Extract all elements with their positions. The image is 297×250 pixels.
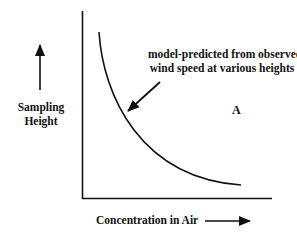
y-axis-label: Sampling Height bbox=[12, 100, 70, 128]
curve-annotation-line-1: model-predicted from observed bbox=[148, 47, 296, 61]
region-label: A bbox=[232, 103, 241, 117]
curve-annotation: model-predicted from observed wind speed… bbox=[148, 47, 296, 75]
pointer-arrow-icon bbox=[128, 82, 160, 111]
x-axis-label: Concentration in Air bbox=[96, 213, 198, 227]
curve-annotation-line-2: wind speed at various heights bbox=[148, 61, 296, 75]
y-axis-label-text: Sampling Height bbox=[12, 100, 70, 128]
